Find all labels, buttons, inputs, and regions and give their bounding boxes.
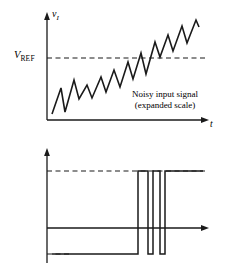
input-signal-panel: vI VREF t Noisy input signal (expanded s… xyxy=(0,0,230,138)
comparator-output-plot xyxy=(0,138,230,276)
comparator-figure: vI VREF t Noisy input signal (expanded s… xyxy=(0,0,230,276)
input-x-axis-label: t xyxy=(210,120,213,130)
input-annotation-line1: Noisy input signal xyxy=(112,89,218,100)
input-y-axis-label: vI xyxy=(52,9,59,22)
comparator-output-waveform xyxy=(52,171,203,254)
output-x-axis-arrow xyxy=(201,225,209,231)
comparator-output-panel: vO VCC −VEE t Comparator output xyxy=(0,138,230,276)
input-signal-plot xyxy=(0,0,230,138)
input-annotation-line2: (expanded scale) xyxy=(112,100,218,111)
input-y-axis-arrow xyxy=(44,12,50,20)
output-y-axis-arrow xyxy=(44,148,50,156)
vref-label: VREF xyxy=(14,50,35,63)
input-annotation: Noisy input signal (expanded scale) xyxy=(112,89,218,112)
input-x-axis-arrow xyxy=(201,117,209,123)
